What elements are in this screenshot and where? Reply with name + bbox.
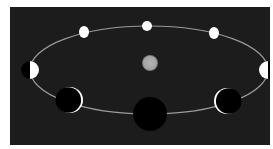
venus-quarter-right bbox=[259, 61, 270, 79]
venus-crescent-right bbox=[214, 88, 242, 114]
venus-gibbous-left bbox=[79, 26, 89, 38]
diagram-panel: Phases of Venus along its orbit around t… bbox=[10, 7, 270, 145]
sun-icon bbox=[142, 55, 158, 71]
venus-gibbous-right bbox=[209, 27, 219, 39]
venus-quarter-left bbox=[21, 61, 39, 79]
venus-full-phase bbox=[142, 21, 152, 31]
venus-phases-diagram bbox=[10, 7, 270, 145]
venus-new-phase bbox=[133, 97, 167, 131]
venus-crescent-left bbox=[56, 87, 83, 113]
